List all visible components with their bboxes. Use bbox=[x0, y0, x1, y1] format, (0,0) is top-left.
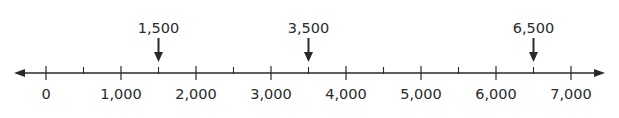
marker-label: 6,500 bbox=[513, 20, 555, 36]
number-line: 01,0002,0003,0004,0005,0006,0007,0001,50… bbox=[0, 0, 619, 118]
tick-label: 1,000 bbox=[100, 86, 142, 102]
tick-label: 0 bbox=[41, 86, 50, 102]
tick-label: 2,000 bbox=[175, 86, 217, 102]
right-arrow-icon bbox=[594, 69, 605, 77]
left-arrow-icon bbox=[14, 69, 25, 77]
marker-label: 1,500 bbox=[138, 20, 180, 36]
down-arrow-icon bbox=[529, 52, 538, 62]
tick-label: 6,000 bbox=[475, 86, 517, 102]
tick-label: 3,000 bbox=[250, 86, 292, 102]
marker-label: 3,500 bbox=[288, 20, 330, 36]
tick-label: 5,000 bbox=[400, 86, 442, 102]
tick-label: 4,000 bbox=[325, 86, 367, 102]
down-arrow-icon bbox=[154, 52, 163, 62]
down-arrow-icon bbox=[304, 52, 313, 62]
tick-label: 7,000 bbox=[550, 86, 592, 102]
